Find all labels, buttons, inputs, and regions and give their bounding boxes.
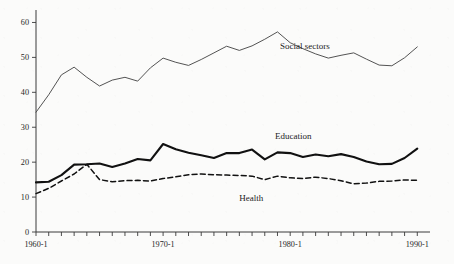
y-tick-label: 30: [21, 123, 29, 132]
series-label-social-sectors: Social sectors: [280, 41, 330, 51]
x-tick-label: 1980-1: [279, 240, 302, 249]
x-tick-label: 1960-1: [24, 240, 47, 249]
line-chart: 01020304050601960-11970-11980-11990-1Soc…: [0, 0, 454, 264]
x-tick-label: 1970-1: [151, 240, 174, 249]
y-tick-label: 60: [21, 18, 29, 27]
y-tick-label: 50: [21, 53, 29, 62]
chart-canvas: 01020304050601960-11970-11980-11990-1Soc…: [0, 0, 454, 264]
series-line-education: [36, 144, 417, 182]
y-tick-label: 10: [21, 193, 29, 202]
series-label-health: Health: [239, 193, 263, 203]
series-line-social-sectors: [36, 32, 417, 112]
y-tick-label: 20: [21, 158, 29, 167]
y-tick-label: 0: [25, 228, 29, 237]
x-tick-label: 1990-1: [406, 240, 429, 249]
y-tick-label: 40: [21, 88, 29, 97]
series-line-health: [36, 164, 417, 193]
series-label-education: Education: [275, 131, 312, 141]
